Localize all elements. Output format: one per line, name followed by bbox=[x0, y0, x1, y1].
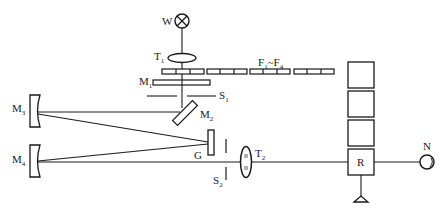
label-m2: M2 bbox=[200, 108, 214, 123]
label-t1: T1 bbox=[154, 50, 165, 65]
label-m3: M3 bbox=[12, 102, 26, 117]
grating-g bbox=[208, 130, 214, 155]
label-g: G bbox=[194, 149, 202, 161]
label-w: W bbox=[162, 15, 173, 27]
filter-strips bbox=[162, 69, 334, 74]
lamp-w bbox=[175, 14, 189, 28]
lens-t2 bbox=[241, 147, 252, 178]
label-s1: S1 bbox=[219, 89, 229, 104]
label-m4: M4 bbox=[12, 153, 26, 168]
label-n: N bbox=[423, 140, 431, 152]
lens-t1 bbox=[168, 54, 196, 63]
detector-n bbox=[420, 155, 434, 169]
beam-g-m4 bbox=[38, 144, 208, 161]
label-t2: T2 bbox=[255, 147, 266, 162]
label-s2: S2 bbox=[213, 174, 223, 189]
stand bbox=[354, 175, 368, 202]
mirror-m3 bbox=[30, 95, 40, 127]
optical-diagram: W T1 F1~F4 M1 S1 M2 M3 M4 G bbox=[0, 0, 447, 216]
label-r: R bbox=[357, 156, 365, 168]
mirror-m2 bbox=[173, 101, 198, 126]
label-m1: M1 bbox=[139, 75, 153, 90]
